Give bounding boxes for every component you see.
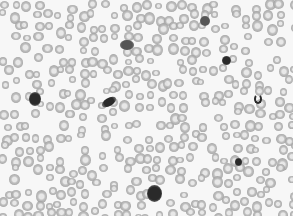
red-blood-cell <box>80 154 91 166</box>
red-blood-cell <box>158 97 167 107</box>
red-blood-cell <box>12 164 19 171</box>
red-blood-cell <box>277 11 285 19</box>
red-blood-cell <box>91 207 99 215</box>
red-blood-cell <box>87 57 98 66</box>
red-blood-cell <box>65 135 73 143</box>
red-blood-cell <box>22 201 33 211</box>
red-blood-cell <box>20 42 30 53</box>
red-blood-cell <box>123 136 132 144</box>
red-blood-cell <box>263 10 274 21</box>
red-blood-cell <box>113 70 122 78</box>
red-blood-cell <box>199 123 208 132</box>
red-blood-cell <box>101 214 109 216</box>
red-blood-cell <box>290 0 293 10</box>
red-blood-cell <box>240 130 248 139</box>
red-blood-cell <box>224 179 232 188</box>
red-blood-cell <box>109 54 119 65</box>
red-blood-cell <box>163 78 172 88</box>
red-blood-cell <box>225 208 234 216</box>
red-blood-cell <box>53 201 61 208</box>
white-blood-cell-smudged <box>120 40 134 50</box>
red-blood-cell <box>144 12 155 24</box>
red-blood-cell <box>141 214 149 216</box>
red-blood-cell <box>176 157 183 163</box>
red-blood-cell <box>100 34 108 42</box>
red-blood-cell <box>190 9 199 19</box>
red-blood-cell <box>274 122 283 131</box>
red-blood-cell <box>132 75 140 83</box>
red-blood-cell <box>186 153 194 162</box>
red-blood-cell <box>79 37 89 47</box>
red-blood-cell <box>211 25 220 33</box>
red-blood-cell <box>46 164 54 171</box>
red-blood-cell <box>25 189 33 196</box>
red-blood-cell <box>125 59 133 66</box>
red-blood-cell <box>168 43 178 55</box>
red-blood-cell <box>179 103 188 112</box>
red-blood-cell <box>289 200 293 210</box>
red-blood-cell <box>99 164 108 173</box>
red-blood-cell <box>262 137 270 144</box>
red-blood-cell <box>214 114 224 123</box>
red-blood-cell <box>152 70 160 77</box>
red-blood-cell <box>263 186 270 194</box>
red-blood-cell <box>55 165 64 174</box>
red-blood-cell <box>110 185 118 192</box>
red-blood-cell <box>15 147 24 157</box>
red-blood-cell <box>169 91 178 99</box>
red-blood-cell <box>126 185 135 195</box>
red-blood-cell <box>91 47 99 56</box>
red-blood-cell <box>240 197 249 206</box>
red-blood-cell <box>285 75 293 84</box>
red-blood-cell <box>0 197 8 206</box>
red-blood-cell <box>197 79 204 86</box>
red-blood-cell <box>88 0 97 9</box>
red-blood-cell <box>45 22 53 30</box>
red-blood-cell <box>234 108 242 115</box>
red-blood-cell <box>155 142 165 153</box>
red-blood-cell <box>278 210 288 216</box>
red-blood-cell <box>211 11 219 18</box>
red-blood-cell <box>0 110 9 120</box>
red-blood-cell <box>274 200 282 208</box>
red-blood-cell <box>10 133 19 142</box>
red-blood-cell <box>146 104 153 111</box>
red-blood-cell <box>267 64 274 72</box>
red-blood-cell <box>33 11 42 19</box>
red-blood-cell <box>147 58 155 65</box>
red-blood-cell <box>4 124 12 131</box>
red-blood-cell <box>233 144 243 154</box>
red-blood-cell <box>55 45 64 53</box>
red-blood-cell <box>59 120 69 131</box>
red-blood-cell <box>290 211 293 216</box>
red-blood-cell <box>147 91 154 99</box>
red-blood-cell <box>189 67 197 75</box>
red-blood-cell <box>4 65 14 74</box>
red-blood-cell <box>245 59 253 67</box>
red-blood-cell <box>11 32 21 40</box>
red-blood-cell <box>120 201 130 210</box>
red-blood-cell <box>153 156 160 164</box>
red-blood-cell <box>219 45 228 53</box>
red-blood-cell <box>152 34 162 43</box>
red-blood-cell <box>197 133 206 141</box>
red-blood-cell <box>198 174 205 182</box>
red-blood-cell <box>188 37 196 44</box>
blood-smear-micrograph <box>0 0 293 216</box>
red-blood-cell <box>291 24 293 32</box>
red-blood-cell <box>188 179 197 188</box>
red-blood-cell <box>142 0 152 10</box>
red-blood-cell <box>46 174 54 181</box>
red-blood-cell <box>46 102 54 111</box>
red-blood-cell <box>155 3 162 9</box>
red-blood-cell <box>78 211 89 216</box>
red-blood-cell <box>167 103 176 112</box>
red-blood-cell <box>87 97 94 103</box>
red-blood-cell <box>290 66 293 73</box>
red-blood-cell <box>65 208 73 216</box>
red-blood-cell <box>244 33 253 40</box>
red-blood-cell <box>81 189 89 199</box>
red-blood-cell <box>276 164 285 172</box>
red-blood-cell <box>179 91 187 100</box>
white-blood-cell-elongated-nucleus <box>100 95 118 110</box>
